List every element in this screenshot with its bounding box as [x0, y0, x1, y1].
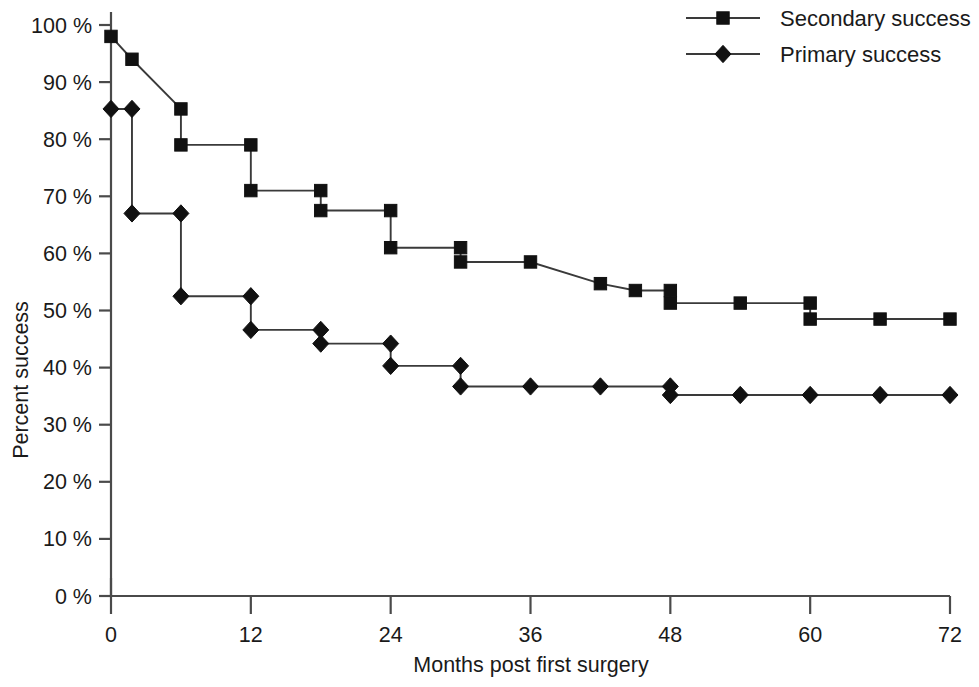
y-tick-label: 30 %	[43, 413, 92, 437]
legend-marker-diamond-icon	[715, 45, 731, 62]
data-point-marker	[124, 205, 140, 222]
y-tick-label: 80 %	[43, 128, 92, 152]
data-point-marker	[453, 357, 469, 374]
legend-item-secondary-success[interactable]: Secondary success	[686, 6, 971, 31]
data-point-marker	[245, 184, 257, 196]
x-axis-title: Months post first surgery	[413, 653, 649, 677]
y-tick-label: 90 %	[43, 71, 92, 95]
data-point-marker	[454, 256, 466, 268]
chart-legend: Secondary successPrimary success	[686, 6, 971, 67]
y-tick-label: 40 %	[43, 356, 92, 380]
data-point-marker	[734, 297, 746, 309]
data-point-marker	[942, 386, 958, 403]
data-point-marker	[802, 386, 818, 403]
data-point-marker	[173, 288, 189, 305]
data-point-marker	[874, 313, 886, 325]
data-point-marker	[315, 184, 327, 196]
y-tick-label: 10 %	[43, 527, 92, 551]
legend-label: Secondary success	[780, 6, 971, 31]
data-point-marker	[384, 204, 396, 216]
data-point-marker	[523, 378, 539, 395]
y-tick-label: 100 %	[31, 14, 92, 38]
x-tick-labels: 0122436486072	[105, 623, 962, 647]
legend-label: Primary success	[780, 42, 941, 67]
y-tick-label: 70 %	[43, 185, 92, 209]
data-point-marker	[124, 100, 140, 117]
data-point-marker	[664, 297, 676, 309]
y-tick-label: 20 %	[43, 470, 92, 494]
success-step-chart: 0 %10 %20 %30 %40 %50 %60 %70 %80 %90 %1…	[0, 0, 979, 687]
y-axis: 0 %10 %20 %30 %40 %50 %60 %70 %80 %90 %1…	[31, 12, 111, 609]
x-tick-label: 60	[798, 623, 822, 647]
series-layer	[103, 30, 958, 403]
chart-root: 0 %10 %20 %30 %40 %50 %60 %70 %80 %90 %1…	[0, 0, 979, 687]
data-point-marker	[315, 204, 327, 216]
data-point-marker	[243, 288, 259, 305]
y-tick-labels: 0 %10 %20 %30 %40 %50 %60 %70 %80 %90 %1…	[31, 14, 92, 609]
x-tick-label: 48	[658, 623, 682, 647]
data-point-marker	[175, 103, 187, 115]
data-point-marker	[383, 335, 399, 352]
data-point-marker	[173, 205, 189, 222]
x-tick-label: 24	[379, 623, 403, 647]
data-point-marker	[103, 100, 119, 117]
series-step-line	[111, 109, 950, 395]
data-point-marker	[454, 241, 466, 253]
y-axis-title: Percent success	[9, 301, 33, 459]
x-tick-label: 36	[519, 623, 543, 647]
legend-item-primary-success[interactable]: Primary success	[686, 42, 941, 67]
series-step-line	[111, 36, 950, 319]
x-axis: 0122436486072	[105, 578, 962, 647]
data-point-marker	[175, 139, 187, 151]
data-point-marker	[383, 357, 399, 374]
data-point-marker	[384, 241, 396, 253]
data-point-marker	[313, 335, 329, 352]
data-point-marker	[245, 139, 257, 151]
data-point-marker	[664, 284, 676, 296]
y-tick-label: 50 %	[43, 299, 92, 323]
data-point-marker	[453, 378, 469, 395]
data-point-marker	[126, 53, 138, 65]
x-tick-label: 0	[105, 623, 117, 647]
data-point-marker	[804, 313, 816, 325]
y-tick-label: 0 %	[55, 585, 92, 609]
data-point-marker	[594, 277, 606, 289]
legend-marker-square-icon	[717, 12, 729, 24]
data-point-marker	[804, 297, 816, 309]
x-tick-label: 12	[239, 623, 263, 647]
series-secondary-success	[105, 30, 956, 325]
data-point-marker	[629, 284, 641, 296]
data-point-marker	[592, 378, 608, 395]
data-point-marker	[944, 313, 956, 325]
data-point-marker	[872, 386, 888, 403]
data-point-marker	[524, 256, 536, 268]
y-tick-label: 60 %	[43, 242, 92, 266]
data-point-marker	[732, 386, 748, 403]
data-point-marker	[243, 321, 259, 338]
x-tick-label: 72	[938, 623, 962, 647]
data-point-marker	[105, 30, 117, 42]
